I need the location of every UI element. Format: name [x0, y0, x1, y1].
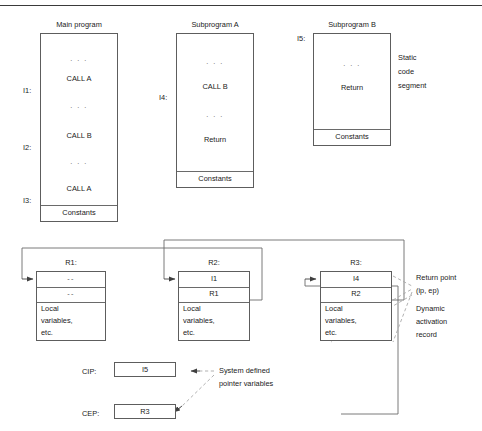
pointer-CIP-value: I5 — [114, 365, 176, 375]
return-point-annotation-line-2: (ip, ep) — [416, 285, 439, 296]
subprogram-a-line-1: . . . — [176, 57, 254, 67]
subprogram-a-constants: Constants — [176, 174, 254, 184]
pointer-CEP-label: CEP: — [82, 409, 99, 419]
record-R3-caption: R3: — [320, 258, 392, 268]
main-program-caption: Main program — [40, 20, 118, 30]
subprogram-a-line-3: . . . — [176, 110, 254, 120]
system-pointer-annotation-line-2: pointer variables — [219, 378, 273, 389]
record-R3-body-line-1: Local — [325, 304, 343, 314]
main-program-line-4: CALL B — [40, 131, 118, 141]
record-R2-slot-1: I1 — [178, 274, 250, 284]
record-R2-caption: R2: — [178, 258, 250, 268]
static-code-segment-annotation-line-2: code — [398, 66, 414, 77]
subprogram-b-line-2: Return — [313, 83, 391, 93]
main-program-label-I1: I1: — [23, 86, 31, 96]
main-program-line-5: . . . — [40, 157, 118, 167]
subprogram-b-constants: Constants — [313, 132, 391, 142]
record-R2-divider-1 — [179, 287, 249, 288]
record-R1-caption: R1: — [36, 258, 106, 268]
main-program-constants-divider — [41, 205, 117, 206]
subprogram-a-line-4: Return — [176, 135, 254, 145]
subprogram-b-caption: Subprogram B — [313, 20, 391, 30]
record-R1-slot-1: -- — [36, 274, 106, 284]
record-R2-body-line-3: etc. — [183, 328, 195, 338]
record-R3-slot-1: I4 — [320, 274, 392, 284]
system-pointer-annotation-line-1: System defined — [219, 365, 270, 376]
record-R1-divider-2 — [37, 302, 105, 303]
record-R3-slot-2: R2 — [320, 289, 392, 299]
static-code-segment-annotation-line-1: Static — [398, 52, 416, 63]
record-R3-body-line-3: etc. — [325, 328, 337, 338]
dynamic-activation-record-annotation-line-3: record — [416, 329, 437, 340]
record-R1-body-line-2: variables, — [41, 316, 73, 326]
subprogram-b-label-I5: I5: — [297, 34, 305, 44]
record-R3-divider-2 — [321, 302, 391, 303]
record-R3-divider-1 — [321, 287, 391, 288]
main-program-line-3: . . . — [40, 101, 118, 111]
record-R2-body-line-2: variables, — [183, 316, 215, 326]
main-program-line-1: . . . — [40, 54, 118, 64]
record-R2-slot-2: R1 — [178, 289, 250, 299]
record-R1-divider-1 — [37, 287, 105, 288]
pointer-CEP-value: R3 — [114, 407, 176, 417]
main-program-line-2: CALL A — [40, 74, 118, 84]
subprogram-b-line-1: . . . — [313, 59, 391, 69]
record-R3-body-line-2: variables, — [325, 316, 357, 326]
dynamic-activation-record-annotation-line-1: Dynamic — [416, 303, 445, 314]
pointer-CIP-label: CIP: — [82, 367, 96, 377]
main-program-constants: Constants — [40, 208, 118, 218]
figure-canvas: Main program . . . CALL A . . . CALL B .… — [0, 0, 482, 431]
main-program-label-I3: I3: — [23, 196, 31, 206]
subprogram-b-constants-divider — [314, 129, 390, 130]
top-horizontal-rule — [0, 5, 482, 6]
subprogram-a-line-2: CALL B — [176, 82, 254, 92]
record-R1-body-line-3: etc. — [41, 328, 53, 338]
subprogram-a-caption: Subprogram A — [176, 20, 254, 30]
subprogram-a-label-I4: I4: — [159, 93, 167, 103]
record-R2-divider-2 — [179, 302, 249, 303]
record-R2-body-line-1: Local — [183, 304, 201, 314]
static-code-segment-annotation-line-3: segment — [398, 80, 426, 91]
return-point-annotation-line-1: Return point — [416, 272, 456, 283]
record-R1-body-line-1: Local — [41, 304, 59, 314]
dynamic-activation-record-annotation-line-2: activation — [416, 316, 447, 327]
subprogram-a-constants-divider — [177, 171, 253, 172]
main-program-label-I2: I2: — [23, 143, 31, 153]
record-R1-slot-2: -- — [36, 289, 106, 299]
main-program-line-6: CALL A — [40, 184, 118, 194]
